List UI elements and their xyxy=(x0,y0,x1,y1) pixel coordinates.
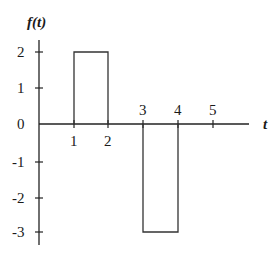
x-tick-label: 3 xyxy=(139,102,147,118)
x-axis-title: t xyxy=(263,116,268,132)
positive-pulse xyxy=(74,52,108,124)
pulse-chart: f(t) t 2 1 0 -1 -2 -3 1 2 3 4 5 xyxy=(0,0,277,259)
x-tick-label: 2 xyxy=(104,133,112,149)
y-tick-labels: 2 1 0 -1 -2 -3 xyxy=(12,44,25,240)
y-tick-label: 0 xyxy=(17,116,25,132)
x-tick-label: 1 xyxy=(70,133,78,149)
y-axis-title: f(t) xyxy=(27,14,46,31)
y-tick-label: 2 xyxy=(17,44,25,60)
x-tick-label: 4 xyxy=(174,102,182,118)
y-tick-label: 1 xyxy=(17,80,25,96)
y-tick-label: -1 xyxy=(12,154,25,170)
x-tick-label: 5 xyxy=(209,102,217,118)
y-tick-label: -2 xyxy=(12,190,25,206)
negative-pulse xyxy=(143,124,178,232)
y-tick-label: -3 xyxy=(12,224,25,240)
